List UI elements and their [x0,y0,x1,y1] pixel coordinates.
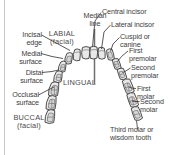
leader-lateral-incisor [102,25,111,49]
label-occlusal-surface: Occlusalsurface [1,91,39,108]
leader-medial-surface [41,54,63,59]
dental-arch-diagram: Medianline Central incisor Lateral incis… [0,0,189,155]
label-lingual: LINGUAL [63,79,111,87]
label-central-incisor: Central incisor [102,8,188,16]
tooth-lateral-incisor-right [98,47,105,59]
label-medial-surface: Medialsurface [2,50,42,67]
tooth-second-premolar-right [117,68,127,80]
label-labial-facial: LABIAL(facial) [42,30,82,47]
label-first-premolar: Firstpremolar [129,47,187,64]
tooth-second-premolar-left [54,71,63,83]
tooth-lateral-incisor-left [73,49,80,61]
tooth-second-molar-left [46,96,56,111]
label-second-premolar: Secondpremolar [131,64,187,81]
label-second-molar: Secondmolar [140,98,188,115]
label-third-molar: Third molar orwisdom tooth [110,126,188,143]
label-distal-surface: Distalsurface [2,69,43,86]
tooth-first-premolar-right [112,58,121,69]
leader-first-premolar [118,51,129,62]
label-lateral-incisor: Lateral incisor [111,21,189,29]
tooth-first-molar-right [122,79,134,94]
tooth-central-incisor-left [82,47,90,59]
tooth-central-incisor-right [90,46,98,59]
label-incisal-edge: Incisaledge [2,31,42,48]
label-buccal-facial: BUCCAL(facial) [7,114,51,131]
